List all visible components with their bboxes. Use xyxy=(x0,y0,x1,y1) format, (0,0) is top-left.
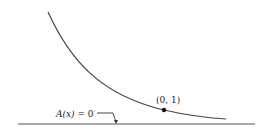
leader-line xyxy=(97,113,116,122)
point-label: (0, 1) xyxy=(156,95,180,105)
point-0-1 xyxy=(162,108,166,112)
asymptote-eq: = 0 xyxy=(75,109,94,119)
asymptote-label: A(x) = 0 xyxy=(55,109,94,119)
asymptote-func: A(x) xyxy=(55,109,75,119)
exponential-decay-diagram: (0, 1) A(x) = 0 xyxy=(0,0,271,139)
decay-curve xyxy=(48,12,226,119)
arrow-head-icon xyxy=(114,120,118,124)
